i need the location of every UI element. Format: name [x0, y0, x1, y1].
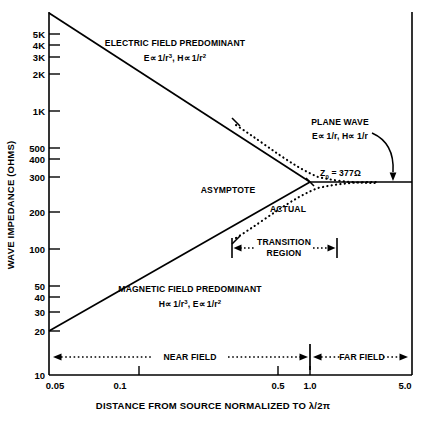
z0-subscript: 0 — [325, 174, 329, 180]
z0-value: = 377Ω — [331, 168, 361, 178]
x-label-0p5: 0.5 — [271, 380, 285, 391]
near-field-label: NEAR FIELD — [163, 352, 216, 362]
near-field-right-arrowhead — [300, 353, 309, 360]
y-label-4k: 4K — [33, 40, 45, 51]
wave-impedance-chart: 5K 4K 3K 2K 1K 500 400 300 200 100 50 40… — [0, 0, 426, 423]
far-field-right-arrowhead — [400, 353, 409, 360]
electric-field-formula: E∝1/r3, H∝1/r2 — [144, 53, 207, 63]
actual-label: ACTUAL — [270, 204, 306, 214]
y-label-100: 100 — [29, 244, 45, 255]
y-label-40: 40 — [34, 292, 45, 303]
y-label-50: 50 — [34, 281, 45, 292]
h-exponent: 2 — [203, 53, 207, 59]
x-axis-title: DISTANCE FROM SOURCE NORMALIZED TO λ/2π — [96, 400, 331, 411]
y-axis-title: WAVE IMPEDANCE (OHMS) — [5, 141, 16, 270]
h-prop-icon-2: ∝ — [165, 299, 171, 309]
y-label-3k: 3K — [33, 52, 45, 63]
h-rate: 1/r — [192, 53, 203, 63]
y-axis-tick-labels: 5K 4K 3K 2K 1K 500 400 300 200 100 50 40… — [29, 29, 45, 381]
h-rate-2: 1/r — [173, 299, 184, 309]
chart-canvas: 5K 4K 3K 2K 1K 500 400 300 200 100 50 40… — [0, 0, 426, 423]
magnetic-field-label: MAGNETIC FIELD PREDOMINANT — [118, 284, 262, 294]
x-label-0p05: 0.05 — [46, 380, 65, 391]
far-field-label: FAR FIELD — [339, 352, 385, 362]
field-region-annotation: NEAR FIELD FAR FIELD — [53, 344, 408, 370]
x-axis-ticks — [139, 366, 310, 375]
y-label-5k: 5K — [33, 29, 45, 40]
transition-right-arrowhead — [328, 245, 336, 252]
e-exponent-2: 2 — [218, 299, 222, 305]
h-comma-e: , E — [188, 299, 199, 309]
e-prop-icon-2: ∝ — [199, 299, 205, 309]
e-rate-2: 1/r — [207, 299, 218, 309]
y-label-200: 200 — [29, 207, 45, 218]
transition-label-line2: REGION — [267, 248, 302, 258]
departure-markers — [232, 118, 314, 244]
far-field-left-arrowhead — [313, 353, 322, 360]
plane-wave-pointer-arrowhead — [390, 173, 397, 182]
e-rate: 1/r — [158, 53, 169, 63]
z0-reference-label: Z0= 377Ω — [320, 168, 361, 180]
y-label-20: 20 — [34, 326, 45, 337]
y-label-2k: 2K — [33, 69, 45, 80]
y-axis-ticks — [49, 34, 60, 331]
y-label-500: 500 — [29, 143, 45, 154]
plane-wave-formula: E∝ 1/r, H∝ 1/r — [312, 131, 369, 141]
actual-magnetic-field-curve — [236, 182, 378, 238]
transition-region-annotation: TRANSITION REGION — [232, 237, 337, 258]
plane-wave-pointer-arc — [372, 133, 393, 172]
y-label-300: 300 — [29, 172, 45, 183]
near-field-left-arrowhead — [53, 353, 62, 360]
transition-label-line1: TRANSITION — [257, 237, 311, 247]
e-prop-icon: ∝ — [150, 53, 156, 63]
magnetic-field-formula: H∝1/r3, E∝1/r2 — [159, 299, 222, 309]
y-label-1k: 1K — [33, 106, 45, 117]
x-label-1p0: 1.0 — [303, 380, 316, 391]
electric-field-annotation: ELECTRIC FIELD PREDOMINANT E∝1/r3, H∝1/r… — [105, 38, 246, 63]
y-label-30: 30 — [34, 307, 45, 318]
x-axis-tick-labels: 0.05 0.1 0.5 1.0 5.0 — [46, 380, 412, 391]
transition-left-arrowhead — [234, 245, 242, 252]
x-label-5p0: 5.0 — [398, 380, 411, 391]
y-label-10: 10 — [34, 370, 45, 381]
asymptote-label: ASYMPTOTE — [201, 185, 256, 195]
electric-field-label: ELECTRIC FIELD PREDOMINANT — [105, 38, 246, 48]
h-prop-icon-1: ∝ — [184, 53, 190, 63]
y-label-400: 400 — [29, 154, 45, 165]
actual-curves-group — [236, 125, 378, 238]
magnetic-field-annotation: MAGNETIC FIELD PREDOMINANT H∝1/r3, E∝1/r… — [118, 284, 262, 309]
e-comma-h: , H — [172, 53, 183, 63]
x-label-0p1: 0.1 — [113, 380, 127, 391]
plane-wave-label: PLANE WAVE — [311, 117, 369, 127]
